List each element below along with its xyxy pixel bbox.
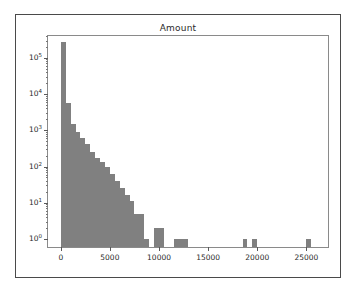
y-axis-minor-tick	[46, 211, 48, 212]
y-axis-minor-tick	[46, 217, 48, 218]
y-axis-minor-tick	[46, 77, 48, 78]
y-axis-minor-tick	[46, 59, 48, 60]
y-axis-minor-tick	[46, 141, 48, 142]
figure-frame: Amount 100101102103104105 05000100001500…	[15, 14, 341, 278]
y-axis-minor-tick	[46, 136, 48, 137]
y-axis-minor-tick	[46, 172, 48, 173]
y-axis-minor-tick	[46, 177, 48, 178]
y-axis-tick-label: 104	[29, 90, 42, 98]
y-axis-minor-tick	[46, 36, 48, 37]
plot-area: 100101102103104105 050001000015000200002…	[47, 35, 329, 248]
y-axis-minor-tick	[46, 138, 48, 139]
histogram-bar	[252, 239, 257, 247]
y-axis-minor-tick	[46, 134, 48, 135]
x-axis-tick-label: 20000	[245, 253, 269, 262]
x-axis-tick	[208, 247, 209, 251]
y-axis-minor-tick	[46, 175, 48, 176]
x-axis-tick-label: 0	[58, 253, 63, 262]
y-axis-tick-label: 102	[29, 163, 42, 171]
x-axis-tick	[306, 247, 307, 251]
x-axis-tick	[159, 247, 160, 251]
y-axis-minor-tick	[46, 181, 48, 182]
y-axis-tick-label: 101	[29, 199, 42, 207]
y-axis-minor-tick	[46, 145, 48, 146]
y-axis-tick-label: 100	[29, 235, 42, 243]
y-axis-minor-tick	[46, 185, 48, 186]
y-axis-minor-tick	[46, 119, 48, 120]
y-axis-minor-tick	[46, 214, 48, 215]
x-axis-tick-label: 15000	[196, 253, 220, 262]
histogram-bar	[306, 239, 311, 247]
y-axis-minor-tick	[46, 61, 48, 62]
y-axis-tick	[44, 239, 48, 240]
y-axis-minor-tick	[46, 108, 48, 109]
y-axis-minor-tick	[46, 72, 48, 73]
y-axis-minor-tick	[46, 102, 48, 103]
y-axis-minor-tick	[46, 98, 48, 99]
x-axis-tick-label: 10000	[147, 253, 171, 262]
y-axis-minor-tick	[46, 222, 48, 223]
histogram-bar	[159, 228, 164, 247]
y-axis-minor-tick	[46, 69, 48, 70]
y-axis-minor-tick	[46, 105, 48, 106]
chart-title: Amount	[16, 23, 340, 33]
histogram-bar	[144, 239, 149, 247]
y-axis-minor-tick	[46, 47, 48, 48]
x-axis-tick	[110, 247, 111, 251]
histogram-bar	[184, 239, 189, 247]
y-axis-minor-tick	[46, 41, 48, 42]
y-axis-minor-tick	[46, 192, 48, 193]
y-axis-tick-label: 105	[29, 54, 42, 62]
y-axis-minor-tick	[46, 149, 48, 150]
y-axis-minor-tick	[46, 208, 48, 209]
y-axis-minor-tick	[46, 170, 48, 171]
y-axis-minor-tick	[46, 83, 48, 84]
y-axis-minor-tick	[46, 204, 48, 205]
y-axis-minor-tick	[46, 96, 48, 97]
x-axis-tick-label: 5000	[100, 253, 119, 262]
x-axis-tick	[257, 247, 258, 251]
y-axis-minor-tick	[46, 206, 48, 207]
y-axis-minor-tick	[46, 228, 48, 229]
y-axis-minor-tick	[46, 132, 48, 133]
y-axis-minor-tick	[46, 168, 48, 169]
y-axis-minor-tick	[46, 66, 48, 67]
histogram-bars	[48, 36, 328, 247]
y-axis-minor-tick	[46, 156, 48, 157]
y-axis-minor-tick	[46, 63, 48, 64]
histogram-bar	[243, 239, 248, 247]
x-axis-tick	[61, 247, 62, 251]
y-axis-minor-tick	[46, 100, 48, 101]
x-axis-tick-label: 25000	[294, 253, 318, 262]
y-axis-minor-tick	[46, 113, 48, 114]
y-axis-tick-label: 103	[29, 127, 42, 135]
